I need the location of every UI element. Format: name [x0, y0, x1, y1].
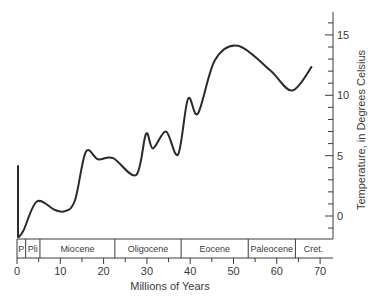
x-tick-label: 60 — [271, 265, 283, 277]
x-tick-label: 0 — [14, 265, 20, 277]
y-axis: 051015 — [325, 12, 349, 239]
y-tick-label: 15 — [337, 29, 349, 41]
epoch-label: Cret. — [304, 244, 324, 254]
epoch-band: PPliMioceneOligoceneEocenePaleoceneCret. — [17, 239, 333, 258]
y-tick-label: 5 — [337, 150, 343, 162]
x-axis: 010203040506070 — [14, 258, 333, 277]
x-tick-label: 70 — [314, 265, 326, 277]
x-tick-label: 40 — [184, 265, 196, 277]
x-tick-label: 30 — [141, 265, 153, 277]
plot-area — [18, 46, 312, 238]
epoch-label: Eocene — [199, 244, 230, 254]
epoch-label: Paleocene — [251, 244, 294, 254]
y-tick-label: 10 — [337, 89, 349, 101]
temperature-line — [18, 46, 312, 238]
epoch-label: Miocene — [60, 244, 94, 254]
x-tick-label: 50 — [227, 265, 239, 277]
temperature-chart: 051015 010203040506070 PPliMioceneOligoc… — [0, 0, 377, 306]
epoch-label: Oligocene — [128, 244, 169, 254]
x-tick-label: 20 — [97, 265, 109, 277]
y-axis-title: Temperature, in Degrees Celsius — [355, 49, 367, 210]
epoch-label: P — [18, 244, 24, 254]
y-tick-label: 0 — [337, 210, 343, 222]
epoch-label: Pli — [28, 244, 38, 254]
x-tick-label: 10 — [54, 265, 66, 277]
x-axis-title: Millions of Years — [130, 280, 210, 292]
